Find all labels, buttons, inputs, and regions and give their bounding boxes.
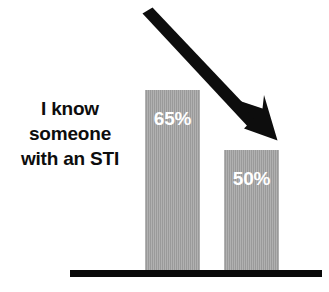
category-label-line-3: with an STI	[6, 146, 134, 171]
category-label: I know someone with an STI	[6, 96, 134, 171]
bar-chart-figure: I know someone with an STI 65% 50%	[0, 0, 329, 292]
category-label-line-2: someone	[6, 121, 134, 146]
category-label-line-1: I know	[6, 96, 134, 121]
bar-value-label-65: 65%	[145, 109, 200, 128]
bar-value-label-50: 50%	[224, 169, 279, 188]
bar-65: 65%	[145, 90, 200, 272]
baseline-axis	[70, 270, 322, 277]
bar-50: 50%	[224, 150, 279, 272]
